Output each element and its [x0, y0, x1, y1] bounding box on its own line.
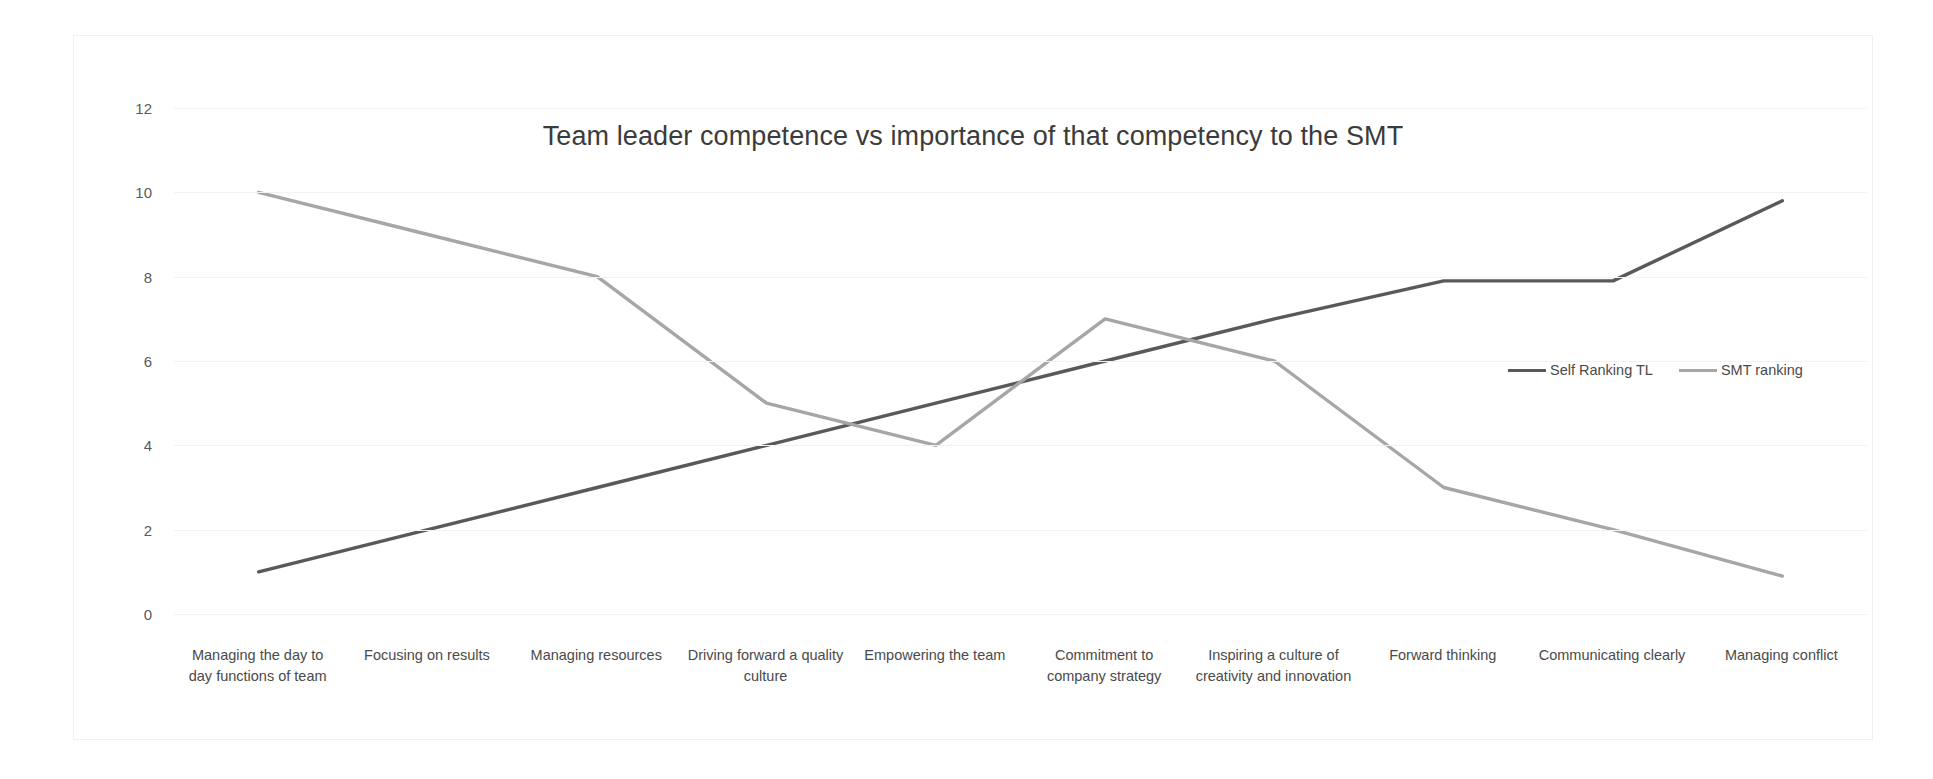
- series-line: [259, 192, 1783, 576]
- y-axis-tick-label: 6: [144, 353, 152, 370]
- x-axis-category-label: Driving forward a quality culture: [681, 645, 850, 687]
- gridline: [174, 192, 1867, 193]
- x-axis-category-label: Managing resources: [512, 645, 681, 687]
- x-axis-category-label: Managing the day to day functions of tea…: [173, 645, 342, 687]
- chart-legend: Self Ranking TLSMT ranking: [1508, 362, 1803, 378]
- x-axis-category-label: Focusing on results: [342, 645, 511, 687]
- x-axis-category-label: Inspiring a culture of creativity and in…: [1189, 645, 1358, 687]
- y-axis-tick-label: 4: [144, 437, 152, 454]
- x-axis-category-label: Communicating clearly: [1527, 645, 1696, 687]
- legend-line-swatch: [1508, 369, 1546, 372]
- y-axis-tick-label: 12: [135, 100, 152, 117]
- y-axis-tick-label: 2: [144, 521, 152, 538]
- x-axis-category-label: Empowering the team: [850, 645, 1019, 687]
- x-axis-category-label: Forward thinking: [1358, 645, 1527, 687]
- y-axis-tick-label: 8: [144, 268, 152, 285]
- legend-item[interactable]: SMT ranking: [1679, 362, 1803, 378]
- x-axis-category-label: Commitment to company strategy: [1019, 645, 1188, 687]
- x-axis-labels: Managing the day to day functions of tea…: [173, 645, 1866, 687]
- gridline: [174, 277, 1867, 278]
- gridline: [174, 614, 1867, 615]
- legend-label: Self Ranking TL: [1550, 362, 1653, 378]
- gridline: [174, 108, 1867, 109]
- chart-screenshot: Team leader competence vs importance of …: [0, 0, 1933, 779]
- x-axis-category-label: Managing conflict: [1697, 645, 1866, 687]
- plot-area: 024681012: [174, 108, 1867, 614]
- legend-line-swatch: [1679, 369, 1717, 372]
- y-axis-tick-label: 10: [135, 184, 152, 201]
- chart-frame: Team leader competence vs importance of …: [73, 35, 1873, 740]
- gridline: [174, 445, 1867, 446]
- gridline: [174, 530, 1867, 531]
- legend-label: SMT ranking: [1721, 362, 1803, 378]
- y-axis-tick-label: 0: [144, 606, 152, 623]
- legend-item[interactable]: Self Ranking TL: [1508, 362, 1653, 378]
